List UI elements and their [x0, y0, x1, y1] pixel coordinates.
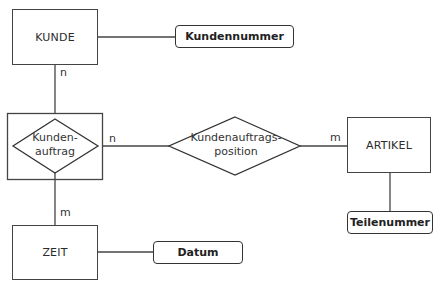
relationship-kundenauftragsposition-label: Kundenauftrags- position [180, 131, 292, 159]
attribute-datum-label: Datum [177, 246, 218, 259]
relationship-kundenauftrag-line1: Kunden- [20, 131, 90, 145]
entity-zeit: ZEIT [12, 225, 98, 280]
relationship-kundenauftrag-label: Kunden- auftrag [20, 131, 90, 159]
entity-kunde: KUNDE [12, 9, 98, 65]
entity-artikel-label: ARTIKEL [366, 139, 412, 152]
entity-zeit-label: ZEIT [42, 246, 67, 259]
attribute-datum: Datum [153, 241, 243, 264]
cardinality-kundenauftrag-position: n [109, 132, 116, 145]
relationship-kundenauftragsposition-line2: position [180, 145, 292, 159]
attribute-kundennummer: Kundennummer [175, 25, 294, 48]
entity-artikel: ARTIKEL [347, 117, 431, 173]
attribute-teilenummer-label: Teilenummer [350, 216, 430, 229]
entity-kunde-label: KUNDE [35, 31, 75, 44]
cardinality-position-artikel: m [330, 131, 341, 144]
attribute-kundennummer-label: Kundennummer [185, 30, 284, 43]
attribute-teilenummer: Teilenummer [347, 211, 433, 234]
cardinality-kundenauftrag-zeit: m [60, 206, 71, 219]
cardinality-kunde-kundenauftrag: n [60, 66, 67, 79]
relationship-kundenauftrag-line2: auftrag [20, 145, 90, 159]
relationship-kundenauftragsposition-line1: Kundenauftrags- [180, 131, 292, 145]
